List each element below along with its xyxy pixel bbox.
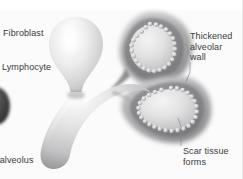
label-fibroblast: Fibroblast: [3, 28, 44, 39]
label-normal-alveolus: d alveolus: [0, 155, 34, 166]
label-thickened-alveolar-wall: Thickened alveolar wall: [190, 31, 232, 63]
cell-edge-left: [0, 87, 10, 125]
label-scar-tissue-forms: Scar tissue forms: [183, 146, 229, 167]
alveolus-normal-left: [49, 17, 103, 96]
label-lymphocyte: Lymphocyte: [2, 62, 51, 73]
right-edge-rule: [242, 0, 243, 179]
figure-panel: Fibroblast Lymphocyte Thickened alveolar…: [0, 0, 243, 179]
